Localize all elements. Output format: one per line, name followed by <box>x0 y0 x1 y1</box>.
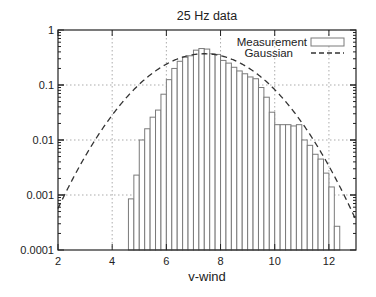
histogram-bars <box>128 49 339 250</box>
histogram-bar <box>156 110 161 250</box>
histogram-bar <box>318 159 323 250</box>
histogram-bar <box>210 54 215 250</box>
histogram-bar <box>248 77 253 250</box>
histogram-bar <box>221 60 226 250</box>
y-tick-label: 0.01 <box>33 134 54 146</box>
x-tick-label: 4 <box>109 255 115 267</box>
histogram-bar <box>286 125 291 250</box>
histogram-bar <box>128 199 133 250</box>
x-axis-label: v-wind <box>188 269 226 284</box>
histogram-bar <box>193 50 198 250</box>
histogram-bar <box>307 145 312 250</box>
y-tick-labels: 10.10.010.0010.0001 <box>20 24 54 256</box>
y-tick-label: 0.1 <box>39 79 54 91</box>
legend: Measurement Gaussian <box>237 36 344 59</box>
histogram-bar <box>134 175 139 250</box>
x-tick-label: 10 <box>269 255 281 267</box>
histogram-bar <box>172 68 177 250</box>
histogram-bar <box>204 49 209 250</box>
x-tick-labels: 24681012 <box>55 255 335 267</box>
histogram-bar <box>291 126 296 250</box>
histogram-bar <box>275 125 280 250</box>
histogram-bar <box>215 54 220 250</box>
x-tick-label: 8 <box>217 255 223 267</box>
y-tick-label: 0.001 <box>26 189 54 201</box>
histogram-bar <box>199 49 204 250</box>
histogram-bar <box>280 125 285 250</box>
histogram-bar <box>242 74 247 250</box>
histogram-bar <box>231 67 236 250</box>
histogram-bar <box>150 117 155 250</box>
x-tick-label: 12 <box>323 255 335 267</box>
histogram-bar <box>226 63 231 250</box>
histogram-bar <box>253 79 258 250</box>
x-tick-label: 2 <box>55 255 61 267</box>
histogram-bar <box>145 129 150 250</box>
histogram-bar <box>313 154 318 250</box>
histogram-bar <box>258 88 263 250</box>
histogram-bar <box>177 61 182 250</box>
histogram-bar <box>139 140 144 250</box>
histogram-bar <box>329 187 334 250</box>
histogram-bar <box>302 140 307 250</box>
histogram-bar <box>269 112 274 250</box>
chart: 25 Hz data 24681012 10.10.010.0010.0001 … <box>0 0 376 297</box>
y-tick-label: 1 <box>48 24 54 36</box>
x-tick-label: 6 <box>163 255 169 267</box>
histogram-bar <box>188 56 193 250</box>
legend-swatch-measurement <box>311 38 344 46</box>
legend-label-gaussian: Gaussian <box>244 47 293 59</box>
histogram-bar <box>161 94 166 250</box>
histogram-bar <box>264 97 269 250</box>
histogram-bar <box>334 226 339 250</box>
chart-title: 25 Hz data <box>177 9 238 23</box>
histogram-bar <box>166 80 171 250</box>
histogram-bar <box>237 71 242 250</box>
histogram-bar <box>183 57 188 250</box>
y-tick-label: 0.0001 <box>20 244 54 256</box>
histogram-bar <box>323 173 328 250</box>
histogram-bar <box>296 125 301 250</box>
